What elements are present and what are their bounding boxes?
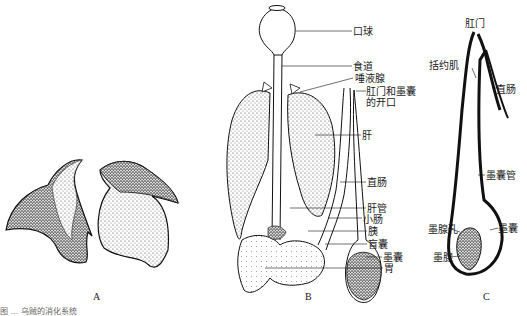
label-hepatic-duct: 肝管 bbox=[367, 203, 387, 214]
label-esophagus: 食道 bbox=[353, 61, 373, 72]
panel-a-liver-halves bbox=[6, 160, 178, 267]
label-ink-sac-b: 墨囊 bbox=[383, 252, 403, 263]
label-stomach: 胃 bbox=[384, 263, 394, 274]
label-buccal-bulb: 口球 bbox=[353, 26, 373, 37]
panel-label-c: C bbox=[483, 291, 490, 302]
label-ink-gland-pore: 墨腺孔 bbox=[428, 224, 458, 235]
label-liver: 肝 bbox=[362, 130, 372, 141]
label-ink-duct: 墨囊管 bbox=[486, 170, 516, 181]
label-ink-gland: 墨腺 bbox=[433, 252, 453, 263]
label-pancreas: 胰 bbox=[368, 226, 378, 237]
figure-caption: 图 … 乌贼的消化系统 bbox=[0, 305, 77, 316]
label-anus: 肛门 bbox=[465, 18, 485, 29]
panel-label-a: A bbox=[93, 291, 100, 302]
label-small-intestine: 小肠 bbox=[363, 214, 383, 225]
panel-label-b: B bbox=[305, 291, 312, 302]
label-sphincter: 括约肌 bbox=[429, 60, 459, 71]
label-rectum-c: 直肠 bbox=[496, 84, 516, 95]
label-caecum: 盲囊 bbox=[368, 239, 388, 250]
label-anus-ink-opening: 肛门和墨囊 bbox=[366, 86, 416, 97]
panel-b-digestive-system bbox=[227, 6, 383, 303]
label-anus-ink-opening-2: 的开口 bbox=[366, 97, 396, 108]
label-rectum: 直肠 bbox=[367, 177, 387, 188]
label-salivary-gland: 唾液腺 bbox=[355, 73, 385, 84]
label-ink-sac-c: 墨囊 bbox=[498, 223, 518, 234]
